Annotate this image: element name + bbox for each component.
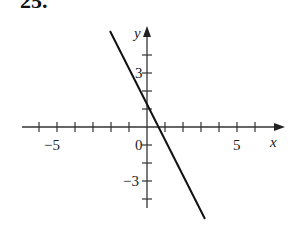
y-axis-arrow-icon: [143, 26, 151, 37]
origin-label: 0: [135, 137, 143, 153]
x-tick-label-5: 5: [233, 137, 241, 153]
x-axis-arrow-icon: [274, 123, 285, 131]
y-axis-label: y: [132, 25, 141, 41]
x-tick-label-neg5: −5: [44, 137, 60, 153]
y-tick-label-3: 3: [135, 65, 143, 81]
coordinate-plane: −5 0 5 x y 3 −3: [0, 0, 295, 225]
y-tick-label-neg3: −3: [123, 173, 139, 189]
graph-line: [110, 31, 205, 219]
x-axis-label: x: [269, 134, 277, 150]
